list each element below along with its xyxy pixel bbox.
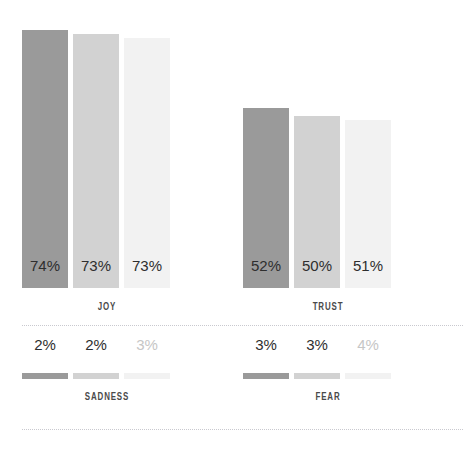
- mini-value-label: 3%: [294, 336, 340, 353]
- mini-bar-fear-2[interactable]: [294, 373, 340, 379]
- bar-value-label: 73%: [73, 257, 119, 274]
- group-label-trust: TRUST: [267, 300, 389, 312]
- mini-value-label: 2%: [22, 336, 68, 353]
- bar-value-label: 50%: [294, 257, 340, 274]
- bar-trust-2[interactable]: 50%: [294, 116, 340, 288]
- mini-value-label: 3%: [124, 336, 170, 353]
- bar-joy-2[interactable]: 73%: [73, 34, 119, 288]
- mini-value-label: 3%: [243, 336, 289, 353]
- emotion-bar-chart: 74% 73% 73% JOY 52% 50% 51%: [0, 0, 471, 452]
- mini-bar-sadness-2[interactable]: [73, 373, 119, 379]
- bar-value-label: 73%: [124, 257, 170, 274]
- bar-trust-3[interactable]: 51%: [345, 120, 391, 288]
- secondary-bar-panel: 2% 2% 3% SADNESS 3% 3% 4% FEAR: [0, 330, 471, 430]
- mini-bar-row: [22, 373, 192, 379]
- group-label-joy: JOY: [46, 300, 168, 312]
- mini-bar-fear-3[interactable]: [345, 373, 391, 379]
- mini-value-row: 2% 2% 3%: [22, 336, 192, 353]
- bar-value-label: 51%: [345, 257, 391, 274]
- bar-value-label: 52%: [243, 257, 289, 274]
- bar-joy-1[interactable]: 74%: [22, 30, 68, 288]
- bar-group-sadness: 2% 2% 3% SADNESS: [22, 330, 192, 430]
- bar-group-fear: 3% 3% 4% FEAR: [243, 330, 413, 430]
- bar-trust-1[interactable]: 52%: [243, 108, 289, 288]
- mini-value-label: 4%: [345, 336, 391, 353]
- bar-row: 74% 73% 73%: [22, 22, 192, 288]
- bar-joy-3[interactable]: 73%: [124, 38, 170, 288]
- divider-bottom: [22, 429, 463, 430]
- divider-top: [22, 325, 463, 326]
- mini-bar-fear-1[interactable]: [243, 373, 289, 379]
- mini-value-row: 3% 3% 4%: [243, 336, 413, 353]
- mini-value-label: 2%: [73, 336, 119, 353]
- bar-group-joy: 74% 73% 73% JOY: [22, 0, 192, 318]
- bar-value-label: 74%: [22, 257, 68, 274]
- bar-row: 52% 50% 51%: [243, 22, 413, 288]
- mini-bar-row: [243, 373, 413, 379]
- primary-bar-panel: 74% 73% 73% JOY 52% 50% 51%: [0, 0, 471, 318]
- bar-group-trust: 52% 50% 51% TRUST: [243, 0, 413, 318]
- group-label-fear: FEAR: [267, 390, 389, 402]
- mini-bar-sadness-3[interactable]: [124, 373, 170, 379]
- group-label-sadness: SADNESS: [46, 390, 168, 402]
- mini-bar-sadness-1[interactable]: [22, 373, 68, 379]
